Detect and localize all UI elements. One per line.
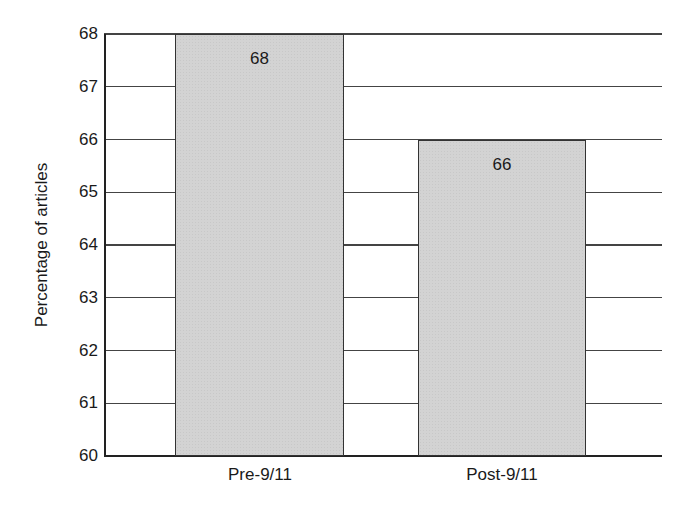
x-tick-label-post-9-11: Post-9/11 — [466, 465, 538, 485]
bar-value-label: 68 — [176, 49, 343, 69]
y-tick-label: 62 — [58, 341, 98, 361]
y-tick-label: 67 — [58, 77, 98, 97]
bar-pre-9-11: 68 — [175, 34, 344, 456]
y-tick-label: 63 — [58, 288, 98, 308]
y-tick-label: 68 — [58, 24, 98, 44]
y-tick-label: 65 — [58, 182, 98, 202]
plot-area: 68 66 — [104, 34, 662, 456]
y-tick-label: 61 — [58, 393, 98, 413]
x-tick-label-pre-9-11: Pre-9/11 — [228, 465, 292, 485]
bar-value-label: 66 — [419, 155, 585, 175]
y-tick-label: 60 — [58, 446, 98, 466]
bar-chart: Percentage of articles 60616263646566676… — [0, 0, 692, 506]
y-axis-label: Percentage of articles — [32, 163, 52, 327]
y-tick-label: 66 — [58, 130, 98, 150]
bar-post-9-11: 66 — [418, 140, 586, 457]
y-tick-label: 64 — [58, 235, 98, 255]
y-axis-line — [104, 34, 106, 456]
